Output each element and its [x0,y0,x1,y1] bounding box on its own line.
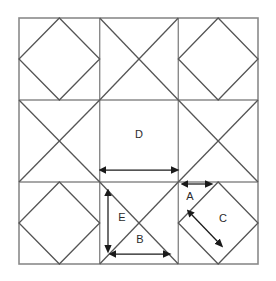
label-b: B [136,233,143,245]
figure-container: D E B A C [0,0,276,281]
label-e: E [118,211,125,223]
label-c: C [219,212,227,224]
label-a: A [186,190,194,202]
quilt-block-figure: D E B A C [0,0,276,281]
label-d: D [135,128,143,140]
